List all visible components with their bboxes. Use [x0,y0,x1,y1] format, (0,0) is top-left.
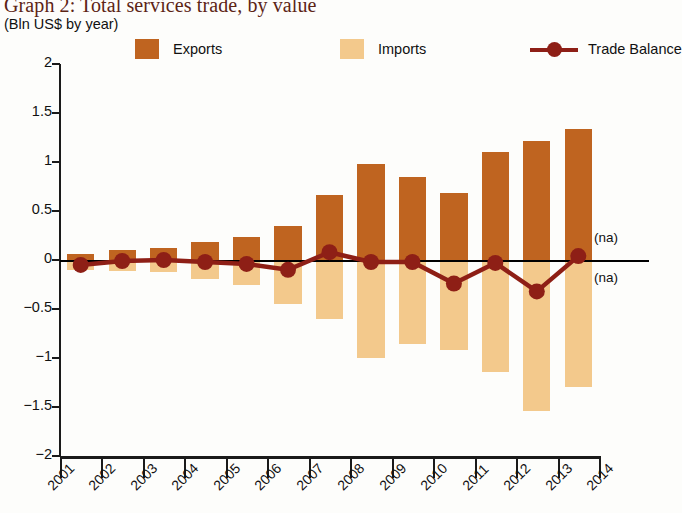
plot-area: 21.510.50−0.5−1−1.5−2 (na)(na) [60,64,600,456]
page-title: Graph 2: Total services trade, by value [4,0,317,17]
trade-balance-point [322,244,338,260]
trade-balance-point [529,283,545,299]
y-tick [52,63,60,65]
x-tick-label: 2012 [500,460,533,493]
trade-balance-point [239,256,255,272]
x-tick-label: 2009 [376,460,409,493]
y-tick [52,308,60,310]
y-tick-label: −1 [14,348,52,364]
x-tick-label: 2011 [459,461,492,494]
legend-item-trade-balance[interactable]: Trade Balance [530,37,682,61]
y-tick [52,161,60,163]
y-tick [52,210,60,212]
x-tick-label: 2007 [293,460,326,493]
y-tick-label: 1 [14,152,52,168]
legend-label: Imports [378,41,426,57]
trade-balance-marker-icon [530,39,578,59]
trade-balance-point [487,255,503,271]
trade-balance-line [60,64,600,456]
trade-balance-point [114,253,130,269]
legend-swatch-exports [135,39,159,59]
trade-balance-point [446,276,462,292]
y-tick [52,455,60,457]
x-tick-label: 2013 [542,460,575,493]
legend-swatch-imports [340,39,364,59]
x-tick-label: 2006 [251,460,284,493]
y-tick [52,357,60,359]
y-tick [52,259,60,261]
y-tick-label: −2 [14,446,52,462]
y-tick-label: 2 [14,54,52,70]
legend-label: Trade Balance [588,41,682,57]
y-tick [52,112,60,114]
trade-balance-point [570,248,586,264]
x-tick-label: 2010 [417,460,450,493]
chart-legend: ExportsImportsTrade Balance [135,37,645,61]
trade-balance-point [73,257,89,273]
x-tick-label: 2003 [127,460,160,493]
legend-label: Exports [173,41,222,57]
y-tick-label: −1.5 [14,397,52,413]
trade-balance-point [280,262,296,278]
legend-item-exports[interactable]: Exports [135,37,222,61]
y-tick-label: −0.5 [14,299,52,315]
y-tick-label: 0.5 [14,201,52,217]
x-tick-label: 2008 [334,460,367,493]
x-tick-label: 2005 [210,460,243,493]
trade-balance-point [156,252,172,268]
y-tick-label: 0 [14,250,52,266]
legend-item-imports[interactable]: Imports [340,37,426,61]
x-tick-label: 2004 [168,460,201,493]
x-tick-label: 2001 [44,460,77,493]
chart-subtitle: (Bln US$ by year) [4,16,118,32]
x-axis-line [60,456,601,459]
trade-balance-point [363,254,379,270]
trade-balance-point [404,254,420,270]
y-tick-label: 1.5 [14,103,52,119]
y-tick [52,406,60,408]
x-tick-label: 2014 [583,460,616,493]
trade-balance-point [197,254,213,270]
x-tick-label: 2002 [85,460,118,493]
